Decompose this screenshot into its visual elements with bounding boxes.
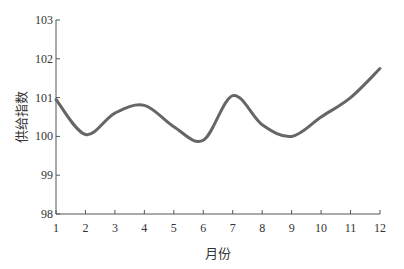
x-tick-label: 9: [289, 221, 295, 235]
x-tick-label: 6: [200, 221, 206, 235]
y-tick-label: 102: [35, 52, 53, 66]
y-tick-label: 98: [41, 207, 53, 221]
line-chart: 9899100101102103 123456789101112 供给指数 月份: [0, 0, 404, 269]
x-tick-label: 8: [259, 221, 265, 235]
x-tick-label: 5: [171, 221, 177, 235]
x-axis: 123456789101112: [53, 210, 386, 235]
x-tick-label: 10: [315, 221, 327, 235]
x-tick-label: 12: [374, 221, 386, 235]
x-tick-label: 2: [82, 221, 88, 235]
y-tick-label: 100: [35, 129, 53, 143]
x-tick-label: 7: [230, 221, 236, 235]
x-axis-title: 月份: [205, 246, 231, 261]
x-tick-label: 11: [345, 221, 357, 235]
x-tick-label: 3: [112, 221, 118, 235]
y-tick-label: 101: [35, 91, 53, 105]
y-tick-label: 103: [35, 13, 53, 27]
x-tick-label: 4: [141, 221, 147, 235]
y-tick-label: 99: [41, 168, 53, 182]
x-tick-label: 1: [53, 221, 59, 235]
y-axis: 9899100101102103: [35, 13, 60, 221]
supply-index-line: [56, 69, 380, 142]
y-axis-title: 供给指数: [14, 91, 29, 143]
